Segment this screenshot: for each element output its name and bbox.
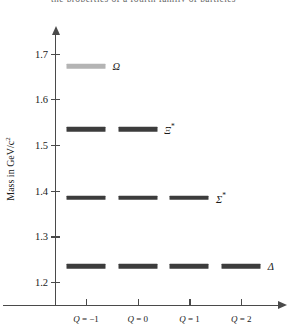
level-label-symbol: Ξ	[164, 125, 171, 136]
level-bar	[67, 195, 106, 200]
level-label: Ξ*	[164, 122, 174, 136]
y-axis-tick-label: 1.3	[35, 231, 48, 242]
x-axis-tick-label: Q = 0	[127, 314, 148, 324]
level-bar	[67, 127, 106, 132]
x-axis-tick	[189, 299, 190, 306]
level-bar	[118, 127, 157, 132]
y-axis-title-text: Mass in GeV/c	[5, 141, 16, 201]
x-axis-tick-value: = −1	[80, 314, 99, 324]
y-axis-tick-label: 1.4	[35, 185, 48, 196]
level-label-star: *	[222, 191, 226, 200]
level-label: Δ	[268, 261, 274, 272]
x-axis-tick	[86, 299, 87, 306]
level-bar	[67, 64, 106, 69]
level-label-symbol: Δ	[268, 261, 274, 272]
y-axis-tick	[51, 282, 60, 283]
y-axis-tick-label: 1.5	[35, 140, 48, 151]
x-axis-tick-label: Q = −1	[73, 314, 99, 324]
baryon-decuplet-chart: the properties of a fourth family of par…	[0, 0, 287, 335]
x-axis-tick-value: = 1	[186, 314, 200, 324]
x-axis-arrow-icon	[278, 301, 287, 309]
level-label-star: *	[171, 122, 175, 131]
plot-area: Mass in GeV/c2 1.21.31.41.51.61.7Q = −1Q…	[55, 33, 280, 305]
y-axis-tick-label: 1.7	[35, 48, 48, 59]
level-bar	[118, 195, 157, 200]
level-label: Σ*	[216, 191, 226, 205]
top-caption: the properties of a fourth family of par…	[0, 0, 287, 2]
level-bar	[222, 264, 261, 269]
x-axis-tick-label: Q = 2	[231, 314, 252, 324]
y-axis-title: Mass in GeV/c2	[4, 137, 16, 201]
y-axis-tick	[51, 99, 60, 100]
level-bar	[118, 264, 157, 269]
x-axis-tick-value: = 0	[134, 314, 148, 324]
x-axis-line	[3, 305, 280, 306]
y-axis-tick-label: 1.2	[35, 277, 48, 288]
level-bar	[170, 264, 209, 269]
x-axis-tick	[138, 299, 139, 306]
level-bar	[67, 264, 106, 269]
y-axis-arrow-icon	[52, 26, 60, 35]
y-axis-title-exponent: 2	[4, 137, 12, 141]
y-axis-tick	[51, 145, 60, 146]
y-axis-line	[55, 33, 56, 305]
y-axis-tick	[51, 54, 60, 55]
x-axis-tick-value: = 2	[237, 314, 251, 324]
x-axis-tick-label: Q = 1	[179, 314, 200, 324]
x-axis-tick	[241, 299, 242, 306]
y-axis-tick	[51, 236, 60, 237]
y-axis-tick-label: 1.6	[35, 94, 48, 105]
level-bar	[170, 195, 209, 200]
y-axis-tick	[51, 191, 60, 192]
level-label: Ω	[113, 61, 121, 72]
level-label-symbol: Ω	[113, 61, 121, 72]
